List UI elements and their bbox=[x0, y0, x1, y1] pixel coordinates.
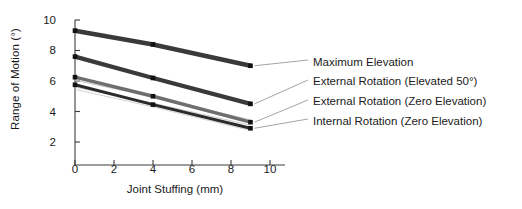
series-3-marker bbox=[73, 83, 78, 88]
series-0 bbox=[75, 31, 251, 66]
leader-line-2 bbox=[255, 100, 309, 122]
series-3 bbox=[75, 85, 251, 128]
legend-label-external-rotation-zero: External Rotation (Zero Elevation) bbox=[313, 95, 486, 107]
series-0-marker bbox=[248, 63, 253, 68]
series-1-marker bbox=[73, 54, 78, 59]
data-series-group bbox=[73, 28, 253, 130]
series-2-marker bbox=[248, 120, 253, 125]
series-3-marker bbox=[248, 126, 253, 131]
legend-label-maximum-elevation: Maximum Elevation bbox=[313, 56, 413, 68]
series-1 bbox=[75, 57, 251, 104]
leader-line-1 bbox=[255, 80, 309, 104]
legend-leader-lines bbox=[255, 60, 309, 128]
series-2 bbox=[75, 77, 251, 122]
series-3-marker bbox=[151, 102, 156, 107]
legend-label-external-rotation-elevated: External Rotation (Elevated 50°) bbox=[313, 75, 477, 87]
series-1-marker bbox=[151, 76, 156, 81]
leader-line-0 bbox=[255, 60, 309, 66]
leader-line-3 bbox=[255, 119, 309, 128]
series-0-marker bbox=[73, 28, 78, 33]
series-1-marker bbox=[248, 102, 253, 107]
series-0-marker bbox=[151, 42, 156, 47]
range-of-motion-line-chart: Range of Motion (°) 10 8 6 4 2 0 2 4 6 8… bbox=[0, 0, 522, 209]
legend-label-internal-rotation-zero: Internal Rotation (Zero Elevation) bbox=[313, 115, 482, 127]
series-2-marker bbox=[151, 94, 156, 99]
series-2-marker bbox=[73, 75, 78, 80]
